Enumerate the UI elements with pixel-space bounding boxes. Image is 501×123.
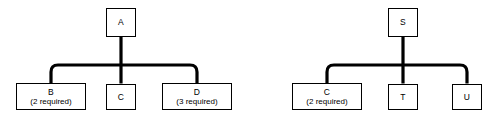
- node-quantity-label: (2 required): [30, 97, 71, 106]
- node-tree-a-child-b[interactable]: B (2 required): [16, 83, 86, 110]
- connector-bus-a: [51, 65, 197, 84]
- diagram-canvas: A B (2 required) C D (3 required) S C (2…: [0, 0, 501, 123]
- node-quantity-label: (3 required): [176, 97, 217, 106]
- node-tree-a-child-c[interactable]: C: [106, 84, 136, 110]
- connector-bus-s: [327, 65, 467, 84]
- node-tree-a-root[interactable]: A: [106, 8, 136, 37]
- node-quantity-label: (2 required): [306, 97, 347, 106]
- node-code: D: [194, 87, 200, 97]
- node-tree-s-root[interactable]: S: [388, 8, 418, 37]
- node-code: C: [118, 92, 124, 102]
- node-code: U: [464, 92, 470, 102]
- node-code: T: [400, 92, 405, 102]
- node-code: A: [118, 17, 124, 27]
- node-tree-a-child-d[interactable]: D (3 required): [162, 83, 232, 110]
- node-tree-s-child-u[interactable]: U: [452, 84, 482, 110]
- node-code: B: [48, 87, 54, 97]
- node-code: S: [400, 17, 406, 27]
- node-tree-s-child-c[interactable]: C (2 required): [292, 83, 362, 110]
- node-code: C: [324, 87, 330, 97]
- node-tree-s-child-t[interactable]: T: [388, 84, 418, 110]
